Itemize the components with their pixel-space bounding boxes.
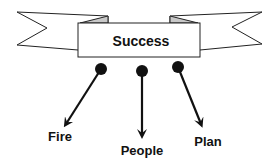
branch-label-plan: Plan (194, 134, 222, 149)
arrow-line-plan (178, 67, 201, 124)
branch-fire: Fire (48, 63, 107, 144)
arrow-line-fire (66, 69, 101, 124)
branch-label-people: People (121, 143, 164, 158)
node-dot-fire (95, 63, 107, 75)
banner-title: Success (113, 33, 170, 49)
node-dot-people (136, 65, 148, 77)
branch-plan: Plan (172, 61, 222, 149)
branch-label-fire: Fire (48, 129, 72, 144)
success-diagram: Success Fire People Plan (0, 0, 275, 166)
node-dot-plan (172, 61, 184, 73)
ribbon-banner: Success (17, 12, 262, 57)
branch-people: People (121, 65, 164, 158)
